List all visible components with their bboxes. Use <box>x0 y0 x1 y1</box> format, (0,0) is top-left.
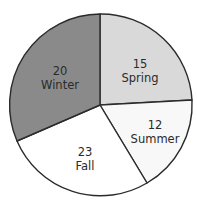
winter-value-label: 20 <box>53 64 68 78</box>
fall-name-label: Fall <box>76 159 95 173</box>
spring-value-label: 15 <box>133 57 148 71</box>
pie-chart: 15 Spring 12 Summer 23 Fall 20 Winter <box>0 0 197 210</box>
spring-name-label: Spring <box>121 71 158 85</box>
summer-value-label: 12 <box>148 118 163 132</box>
winter-name-label: Winter <box>41 78 79 92</box>
fall-value-label: 23 <box>78 145 93 159</box>
summer-name-label: Summer <box>131 132 180 146</box>
